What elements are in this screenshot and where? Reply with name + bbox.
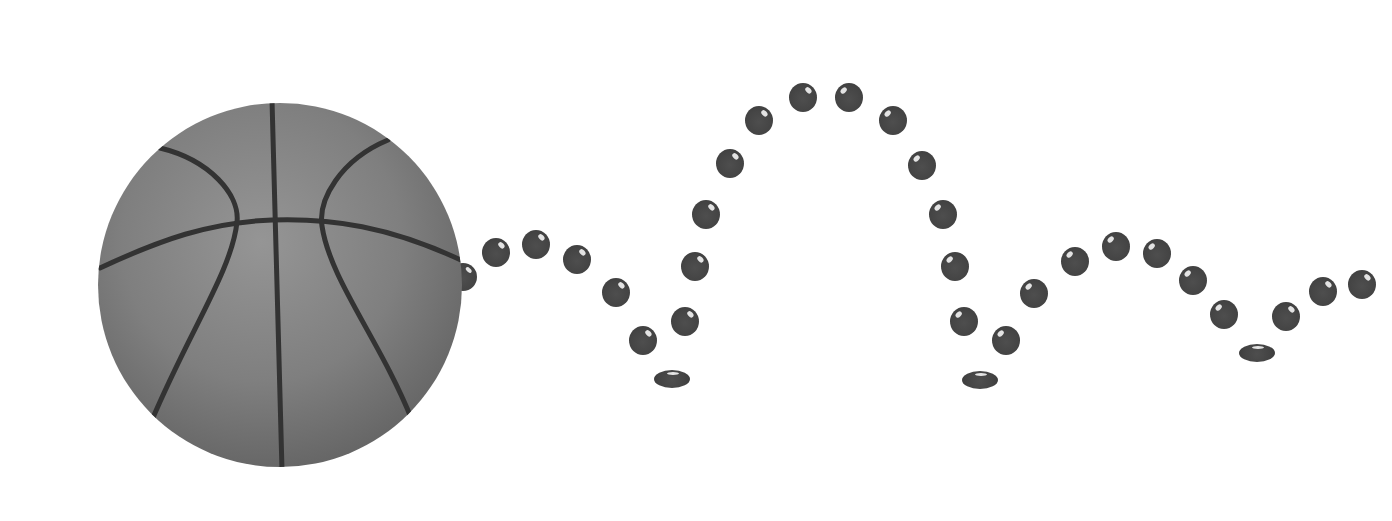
basketball [0, 0, 1392, 521]
bouncing-ball-scene [0, 0, 1392, 521]
